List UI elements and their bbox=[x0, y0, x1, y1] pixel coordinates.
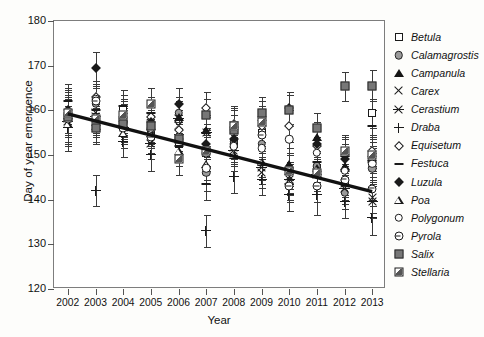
legend-item-campanula[interactable]: Campanula bbox=[392, 64, 482, 82]
diamond-open-icon bbox=[394, 141, 404, 151]
legend-item-poa[interactable]: Poa bbox=[392, 191, 482, 209]
error-bar-cap bbox=[370, 99, 377, 100]
triangle-open-icon bbox=[394, 196, 404, 204]
error-bar-cap bbox=[287, 155, 294, 156]
error-bar-cap bbox=[370, 142, 377, 143]
error-bar-cap bbox=[204, 247, 211, 248]
legend-item-stellaria[interactable]: Stellaria bbox=[392, 263, 482, 281]
x-tick bbox=[206, 289, 207, 295]
error-bar-cap bbox=[204, 157, 211, 158]
x-cross-bar-icon bbox=[367, 197, 377, 207]
y-tick bbox=[48, 21, 54, 22]
square-gray-icon bbox=[119, 119, 128, 128]
plus-icon bbox=[257, 175, 267, 185]
legend-marker bbox=[392, 230, 405, 243]
circle-open-icon bbox=[313, 149, 322, 158]
legend-item-cerastium[interactable]: Cerastium bbox=[392, 100, 482, 118]
error-bar-cap bbox=[370, 137, 377, 138]
square-gray-icon bbox=[394, 250, 403, 259]
diamond-filled-icon bbox=[91, 63, 101, 73]
error-bar-cap bbox=[287, 153, 294, 154]
error-bar-cap bbox=[93, 84, 100, 85]
error-bar-cap bbox=[370, 235, 377, 236]
error-bar-cap bbox=[231, 115, 238, 116]
plus-icon bbox=[312, 190, 322, 200]
x-tick bbox=[123, 289, 124, 295]
error-bar-cap bbox=[121, 90, 128, 91]
error-bar-cap bbox=[121, 99, 128, 100]
circle-open-icon bbox=[230, 142, 239, 151]
error-bar-cap bbox=[259, 153, 266, 154]
legend-item-luzula[interactable]: Luzula bbox=[392, 173, 482, 191]
error-bar-cap bbox=[176, 88, 183, 89]
plus-icon bbox=[201, 226, 211, 236]
dash-icon bbox=[312, 161, 321, 163]
error-bar-cap bbox=[314, 215, 321, 216]
error-bar-cap bbox=[314, 113, 321, 114]
error-bar-cap bbox=[204, 124, 211, 125]
error-bar-cap bbox=[65, 137, 72, 138]
legend-label: Draba bbox=[411, 122, 440, 133]
legend-item-polygonum[interactable]: Polygonum bbox=[392, 209, 482, 227]
legend-label: Festuca bbox=[411, 158, 449, 169]
error-bar-cap bbox=[65, 88, 72, 89]
legend-label: Poa bbox=[411, 195, 430, 206]
circle-gray-icon bbox=[394, 51, 403, 60]
error-bar-cap bbox=[342, 72, 349, 73]
error-bar-cap bbox=[287, 148, 294, 149]
plus-icon bbox=[91, 186, 101, 196]
dash-icon bbox=[394, 163, 403, 165]
square-hatched-icon bbox=[174, 155, 183, 164]
error-bar-cap bbox=[93, 144, 100, 145]
legend-item-calamagrostis[interactable]: Calamagrostis bbox=[392, 46, 482, 64]
legend-item-salix[interactable]: Salix bbox=[392, 245, 482, 263]
error-bar-cap bbox=[93, 206, 100, 207]
x-tick bbox=[151, 289, 152, 295]
error-bar-cap bbox=[370, 135, 377, 136]
y-tick bbox=[48, 66, 54, 67]
legend-label: Equisetum bbox=[411, 140, 461, 151]
error-bar-cap bbox=[370, 139, 377, 140]
error-bar-cap bbox=[204, 180, 211, 181]
error-bar-cap bbox=[370, 173, 377, 174]
error-bar-cap bbox=[231, 110, 238, 111]
error-bar-cap bbox=[93, 175, 100, 176]
legend-item-pyrola[interactable]: Pyrola bbox=[392, 227, 482, 245]
legend-marker bbox=[392, 175, 405, 188]
legend-item-draba[interactable]: Draba bbox=[392, 118, 482, 136]
circle-bar-icon bbox=[394, 232, 403, 241]
circle-open-icon bbox=[202, 164, 211, 173]
x-tick bbox=[317, 289, 318, 295]
legend-label: Luzula bbox=[411, 177, 442, 188]
chart-root: Day of year emergence Year 1201301401501… bbox=[0, 0, 484, 337]
error-bar-cap bbox=[287, 202, 294, 203]
circle-open-icon bbox=[285, 135, 294, 144]
legend-item-festuca[interactable]: Festuca bbox=[392, 155, 482, 173]
plus-icon bbox=[340, 197, 350, 207]
dash-icon bbox=[202, 183, 211, 185]
legend-label: Carex bbox=[411, 86, 439, 97]
square-hatched-icon bbox=[285, 166, 294, 175]
error-bar-cap bbox=[259, 101, 266, 102]
square-gray-icon bbox=[202, 110, 211, 119]
legend-item-carex[interactable]: Carex bbox=[392, 82, 482, 100]
x-tick bbox=[345, 289, 346, 295]
legend-item-equisetum[interactable]: Equisetum bbox=[392, 137, 482, 155]
error-bar-cap bbox=[259, 97, 266, 98]
dash-icon bbox=[368, 125, 377, 127]
legend-label: Salix bbox=[411, 249, 434, 260]
error-bar-cap bbox=[259, 188, 266, 189]
y-tick bbox=[48, 200, 54, 201]
error-bar-cap bbox=[204, 215, 211, 216]
legend-marker bbox=[392, 211, 405, 224]
dash-icon bbox=[63, 100, 72, 102]
y-tick-label: 120 bbox=[10, 282, 46, 294]
legend-marker bbox=[392, 248, 405, 261]
legend-item-betula[interactable]: Betula bbox=[392, 28, 482, 46]
error-bar-cap bbox=[342, 218, 349, 219]
x-tick bbox=[96, 289, 97, 295]
triangle-open-icon bbox=[229, 151, 239, 159]
x-cross-bar-icon bbox=[340, 184, 350, 194]
square-hatched-icon bbox=[312, 168, 321, 177]
error-bar-cap bbox=[176, 166, 183, 167]
